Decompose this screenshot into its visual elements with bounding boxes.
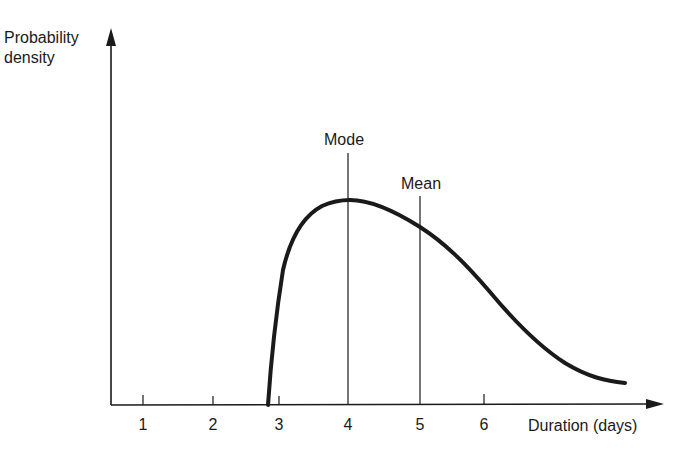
x-axis-arrow-icon	[646, 399, 664, 409]
x-tick-label-4: 4	[338, 416, 358, 434]
x-tick-label-1: 1	[133, 416, 153, 434]
chart-canvas	[0, 0, 683, 461]
mean-label: Mean	[401, 175, 441, 193]
x-tick-label-2: 2	[203, 416, 223, 434]
y-axis-arrow-icon	[106, 28, 116, 46]
x-tick-label-5: 5	[410, 416, 430, 434]
x-axis-label: Duration (days)	[528, 417, 637, 435]
y-axis-label-line1: Probability	[4, 29, 79, 47]
x-tick-label-6: 6	[474, 416, 494, 434]
mode-label: Mode	[324, 131, 364, 149]
x-tick-label-3: 3	[269, 416, 289, 434]
x-axis	[111, 404, 648, 405]
y-axis-label-line2: density	[4, 49, 55, 67]
density-curve	[268, 200, 625, 405]
x-ticks	[143, 394, 484, 405]
